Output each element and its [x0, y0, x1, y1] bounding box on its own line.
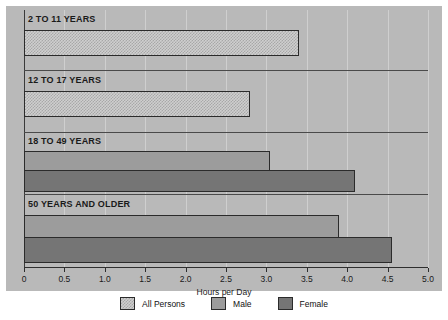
group-label: 50 YEARS AND OLDER [28, 199, 130, 209]
legend-swatch-male-icon [211, 297, 226, 310]
x-tick-label: 3.5 [301, 274, 313, 284]
tick-mark [186, 268, 187, 272]
legend-label: Female [300, 299, 328, 309]
bar-male-50-and-older[interactable] [24, 215, 339, 239]
group-separator [24, 132, 428, 133]
plot-panel: 2 TO 11 YEARS 12 TO 17 YEARS 18 TO 49 YE… [6, 6, 442, 291]
legend-item-female[interactable]: Female [278, 297, 328, 310]
x-axis-title: Hours per Day [6, 287, 442, 297]
x-tick-label: 0.5 [58, 274, 70, 284]
x-tick-label: 4.0 [341, 274, 353, 284]
group-label: 12 TO 17 YEARS [28, 75, 101, 85]
legend-label: Male [233, 299, 251, 309]
tick-mark [347, 268, 348, 272]
legend-item-all-persons[interactable]: All Persons [120, 297, 185, 310]
bar-all-persons-12-to-17[interactable] [24, 91, 250, 117]
tick-mark [428, 268, 429, 272]
tick-mark [307, 268, 308, 272]
bar-male-18-to-49[interactable] [24, 151, 270, 172]
tick-mark [64, 268, 65, 272]
x-tick-label: 5.0 [422, 274, 434, 284]
tick-mark [266, 268, 267, 272]
chart-legend: All Persons Male Female [0, 297, 448, 310]
legend-item-male[interactable]: Male [211, 297, 251, 310]
x-tick-labels: 00.51.01.52.02.53.03.54.04.55.0 [24, 274, 428, 286]
group-label: 2 TO 11 YEARS [28, 14, 96, 24]
x-tick-label: 2.5 [220, 274, 232, 284]
bar-group-18-to-49: 18 TO 49 YEARS [24, 134, 428, 194]
tick-mark [24, 268, 25, 272]
chart-figure: 2 TO 11 YEARS 12 TO 17 YEARS 18 TO 49 YE… [0, 0, 448, 320]
x-tick-label: 2.0 [180, 274, 192, 284]
legend-swatch-all-persons-icon [120, 297, 135, 310]
group-separator [24, 194, 428, 195]
bar-female-50-and-older[interactable] [24, 237, 392, 263]
plot-area: 2 TO 11 YEARS 12 TO 17 YEARS 18 TO 49 YE… [24, 10, 428, 268]
x-tick-label: 1.5 [139, 274, 151, 284]
x-tick-label: 3.0 [260, 274, 272, 284]
tick-mark [388, 268, 389, 272]
bar-all-persons-2-to-11[interactable] [24, 30, 299, 56]
x-tick-label: 4.5 [382, 274, 394, 284]
bar-group-12-to-17: 12 TO 17 YEARS [24, 72, 428, 132]
group-label: 18 TO 49 YEARS [28, 136, 101, 146]
gridline [428, 10, 429, 268]
group-separator [24, 70, 428, 71]
bar-group-50-and-older: 50 YEARS AND OLDER [24, 196, 428, 268]
bar-group-2-to-11: 2 TO 11 YEARS [24, 10, 428, 70]
tick-mark [226, 268, 227, 272]
legend-label: All Persons [142, 299, 185, 309]
x-tick-label: 1.0 [99, 274, 111, 284]
legend-swatch-female-icon [278, 297, 293, 310]
x-tick-label: 0 [22, 274, 27, 284]
bar-female-18-to-49[interactable] [24, 170, 355, 192]
tick-mark [145, 268, 146, 272]
tick-mark [105, 268, 106, 272]
